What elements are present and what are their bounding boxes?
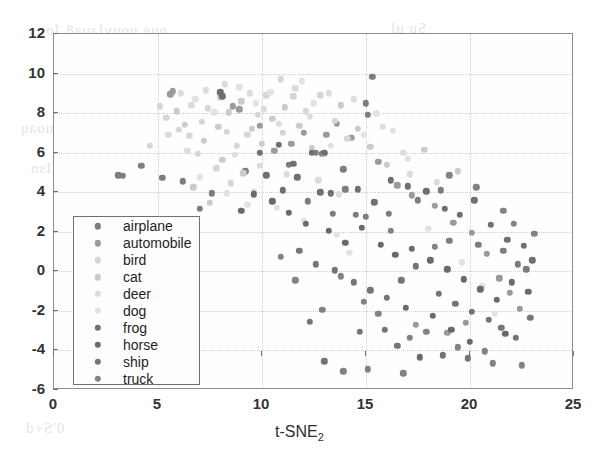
x-tick-label: 20: [449, 395, 489, 412]
data-point: [390, 128, 396, 134]
y-tick-mark: [53, 73, 58, 74]
legend-item-ship[interactable]: ship: [74, 353, 199, 370]
y-tick-label: -2: [5, 301, 45, 318]
data-point: [286, 210, 292, 216]
data-point: [469, 309, 475, 315]
legend-label: bird: [123, 252, 146, 268]
data-point: [384, 161, 390, 167]
data-point: [246, 90, 252, 96]
data-point: [456, 212, 462, 218]
legend-item-cat[interactable]: cat: [74, 269, 199, 286]
data-point: [452, 301, 458, 307]
data-point: [325, 228, 331, 234]
data-point: [317, 189, 323, 195]
data-point: [219, 93, 225, 99]
legend-item-deer[interactable]: deer: [74, 286, 199, 303]
data-point: [223, 129, 229, 135]
data-point: [315, 177, 321, 183]
data-point: [269, 116, 275, 122]
legend-item-truck[interactable]: truck: [74, 370, 199, 387]
data-point: [236, 84, 242, 90]
data-point: [138, 162, 144, 168]
data-point: [423, 328, 429, 334]
y-tick-mark: [53, 389, 58, 390]
data-point: [332, 267, 338, 273]
data-point: [307, 114, 313, 120]
data-point: [267, 89, 273, 95]
data-point: [215, 124, 221, 130]
data-point: [282, 104, 288, 110]
legend-label: deer: [123, 286, 151, 302]
x-tick-label: 10: [241, 395, 281, 412]
data-point: [196, 206, 202, 212]
legend-item-airplane[interactable]: airplane: [74, 218, 199, 235]
data-point: [388, 228, 394, 234]
data-point: [302, 221, 308, 227]
gridline-vertical: [366, 34, 367, 388]
y-tick-label: -4: [5, 340, 45, 357]
data-point: [531, 231, 537, 237]
data-point: [346, 249, 352, 255]
y-tick-mark: [53, 349, 58, 350]
y-tick-label: 0: [5, 261, 45, 278]
data-point: [327, 143, 333, 149]
x-tick-mark: [53, 351, 54, 356]
data-point: [494, 297, 500, 303]
data-point: [379, 124, 385, 130]
legend-item-horse[interactable]: horse: [74, 336, 199, 353]
data-point: [450, 220, 456, 226]
data-point: [228, 180, 234, 186]
data-point: [469, 230, 475, 236]
data-point: [203, 87, 209, 93]
data-point: [292, 277, 298, 283]
data-point: [255, 112, 261, 118]
legend-item-dog[interactable]: dog: [74, 303, 199, 320]
data-point: [483, 250, 489, 256]
data-point: [300, 130, 306, 136]
data-point: [278, 76, 284, 82]
data-point: [429, 313, 435, 319]
x-axis-label: t-SNE2: [0, 423, 599, 443]
data-point: [192, 96, 198, 102]
data-point: [219, 156, 225, 162]
y-tick-mark: [53, 310, 58, 311]
data-point: [458, 259, 464, 265]
data-point: [298, 78, 304, 84]
legend[interactable]: airplaneautomobilebirdcatdeerdogfroghors…: [73, 216, 200, 385]
data-point: [400, 370, 406, 376]
data-point: [446, 172, 452, 178]
legend-marker-icon: [95, 325, 101, 331]
y-tick-label: 8: [5, 103, 45, 120]
data-point: [188, 102, 194, 108]
x-axis-label-subscript: 2: [318, 431, 324, 443]
data-point: [463, 320, 469, 326]
data-point: [500, 247, 506, 253]
data-point: [440, 352, 446, 358]
data-point: [367, 144, 373, 150]
data-point: [417, 354, 423, 360]
legend-label: automobile: [123, 235, 192, 251]
data-point: [330, 211, 336, 217]
legend-item-bird[interactable]: bird: [74, 252, 199, 269]
x-tick-mark: [469, 351, 470, 356]
legend-item-frog[interactable]: frog: [74, 319, 199, 336]
data-point: [201, 138, 207, 144]
data-point: [232, 151, 238, 157]
data-point: [404, 155, 410, 161]
legend-item-automobile[interactable]: automobile: [74, 235, 199, 252]
legend-marker-icon: [95, 342, 101, 348]
data-point: [334, 232, 340, 238]
data-point: [340, 368, 346, 374]
data-point: [515, 261, 521, 267]
legend-marker-icon: [95, 257, 101, 263]
data-point: [236, 106, 242, 112]
data-point: [413, 263, 419, 269]
data-point: [367, 287, 373, 293]
data-point: [521, 242, 527, 248]
legend-label: horse: [123, 337, 158, 353]
data-point: [442, 206, 448, 212]
data-point: [357, 328, 363, 334]
data-point: [284, 171, 290, 177]
data-point: [261, 106, 267, 112]
data-point: [431, 203, 437, 209]
